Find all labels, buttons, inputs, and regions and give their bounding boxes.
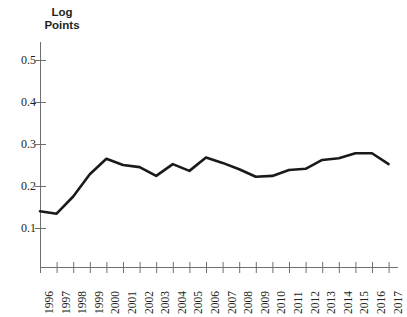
chart-container: Log Points 0.50.40.30.20.1 1996199719981… bbox=[0, 0, 407, 317]
x-axis-tick-label: 2010 bbox=[276, 291, 287, 314]
plot-area bbox=[0, 0, 407, 317]
x-axis-tick-label: 2002 bbox=[144, 291, 155, 314]
data-series-line bbox=[40, 153, 389, 213]
x-axis-tick-label: 2000 bbox=[110, 291, 121, 314]
x-axis-tick-label: 2008 bbox=[243, 291, 254, 314]
axis-lines bbox=[40, 42, 398, 268]
x-axis-tick-label: 1996 bbox=[44, 291, 55, 314]
x-axis-tick-label: 2017 bbox=[393, 291, 404, 314]
x-axis-tick-label: 2009 bbox=[260, 291, 271, 314]
x-axis-tick-label: 2015 bbox=[359, 291, 370, 314]
x-axis-tick-labels: 1996199719981999200020012002200320042005… bbox=[0, 276, 407, 317]
x-axis-tick-label: 2014 bbox=[343, 291, 354, 314]
x-axis-tick-label: 1999 bbox=[94, 291, 105, 314]
x-axis-tick-label: 2005 bbox=[193, 291, 204, 314]
x-axis-tick-label: 2011 bbox=[293, 291, 304, 314]
x-axis-tick-label: 2012 bbox=[310, 291, 321, 314]
x-axis-tick-label: 1998 bbox=[77, 291, 88, 314]
x-axis-tick-label: 2007 bbox=[227, 291, 238, 314]
x-axis-tick-label: 1997 bbox=[61, 291, 72, 314]
x-axis-tick-label: 2001 bbox=[127, 291, 138, 314]
x-axis-tick-label: 2016 bbox=[376, 291, 387, 314]
x-axis-tick-label: 2003 bbox=[160, 291, 171, 314]
x-axis-tick-label: 2004 bbox=[177, 291, 188, 314]
x-axis-tick-label: 2013 bbox=[326, 291, 337, 314]
x-axis-tick-label: 2006 bbox=[210, 291, 221, 314]
